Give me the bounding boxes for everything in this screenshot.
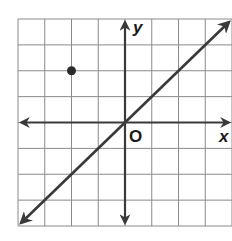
- origin-label: O: [129, 127, 142, 146]
- plotted-point: [67, 66, 76, 75]
- y-axis-label: y: [132, 18, 144, 37]
- x-axis-label: x: [218, 127, 230, 146]
- coordinate-plane: y x O: [0, 0, 232, 241]
